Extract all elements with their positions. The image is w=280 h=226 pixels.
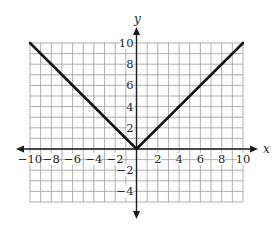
x-tick-label: 4 [175, 152, 182, 166]
y-tick-label: 10 [119, 36, 134, 50]
x-tick-label: 10 [236, 152, 251, 166]
x-axis-right-arrow-icon [250, 146, 258, 153]
y-tick-label: −2 [117, 163, 134, 177]
y-tick-label: 2 [126, 121, 133, 135]
x-tick-label: 2 [154, 152, 161, 166]
y-axis-down-arrow-icon [133, 211, 140, 219]
y-tick-label: 6 [126, 78, 133, 92]
x-tick-label: −6 [64, 152, 81, 166]
x-tick-label: −8 [43, 152, 60, 166]
x-tick-label: 8 [218, 152, 225, 166]
graph-plot: −10−8−6−4−2246810108642−2−4 x y [0, 0, 280, 226]
y-axis-up-arrow-icon [133, 27, 140, 35]
y-tick-label: 4 [126, 100, 133, 114]
x-axis-label: x [263, 142, 270, 156]
y-tick-label: −4 [117, 184, 134, 198]
y-tick-label: 8 [126, 57, 133, 71]
x-tick-label: −10 [18, 152, 42, 166]
x-tick-label: 6 [197, 152, 204, 166]
y-axis-label: y [133, 12, 141, 26]
x-tick-label: −4 [85, 152, 102, 166]
